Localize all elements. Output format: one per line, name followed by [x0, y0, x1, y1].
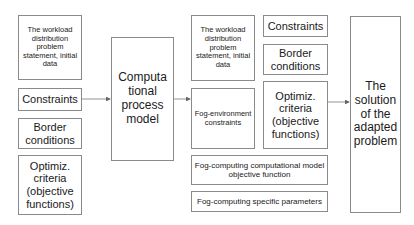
node-computational-process-model: Computa tional process model [111, 37, 174, 161]
node-workload-statement-2: The workload distribution problem statem… [191, 15, 255, 81]
node-border-conditions: Border conditions [18, 118, 82, 149]
node-optimization-criteria: Optimiz. criteria (objective functions) [18, 155, 82, 215]
node-fog-environment-constraints: Fog-environment constraints [191, 88, 255, 149]
node-constraints: Constraints [18, 88, 82, 111]
node-optimization-criteria-2: Optimiz. criteria (objective functions) [263, 81, 328, 149]
node-fog-specific-parameters: Fog-computing specific parameters [191, 191, 328, 212]
node-fog-objective-function: Fog-computing computational model object… [191, 155, 328, 185]
node-solution: The solution of the adapted problem [350, 16, 401, 213]
node-constraints-2: Constraints [263, 15, 328, 37]
node-workload-statement: The workload distribution problem statem… [18, 15, 82, 80]
node-border-conditions-2: Border conditions [263, 44, 328, 75]
